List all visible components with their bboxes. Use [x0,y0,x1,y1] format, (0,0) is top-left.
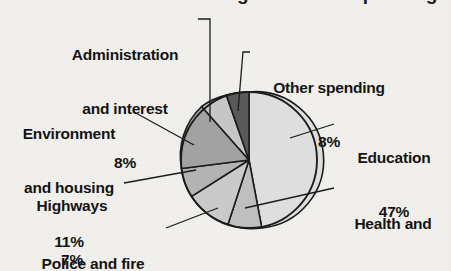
label-administration-line1: Administration [52,46,198,64]
label-health-and-hospitals: Health and hospitals 8% [339,179,447,271]
label-highways-line1: Highways [22,197,122,215]
label-police-line1: Police and fire [22,255,164,271]
label-police-and-fire: Police and fire 11% [22,219,164,271]
label-health-line1: Health and [339,215,447,233]
label-other-line1: Other spending [256,79,402,97]
label-environment-line1: Environment [6,125,132,143]
leader-line-police-and-fire [166,208,218,228]
label-education-line1: Education [342,149,446,167]
